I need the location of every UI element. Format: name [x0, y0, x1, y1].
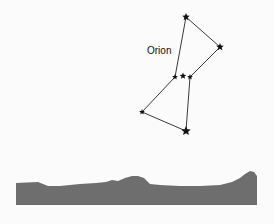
- constellation-line: [190, 47, 220, 77]
- horizon-landscape: [16, 171, 257, 205]
- constellation-lines: [142, 17, 220, 131]
- constellation-line: [142, 112, 186, 131]
- figure-canvas: Orion: [0, 0, 274, 224]
- constellation-line: [175, 17, 186, 77]
- star-icon-bottom: [181, 126, 191, 135]
- constellation-line: [186, 77, 190, 131]
- constellation-line: [142, 77, 175, 112]
- constellation-stars: [139, 13, 224, 135]
- star-icon-belt-middle: [180, 73, 187, 79]
- orion-label: Orion: [147, 45, 171, 56]
- orion-diagram: Orion: [0, 0, 274, 224]
- constellation-line: [186, 17, 220, 47]
